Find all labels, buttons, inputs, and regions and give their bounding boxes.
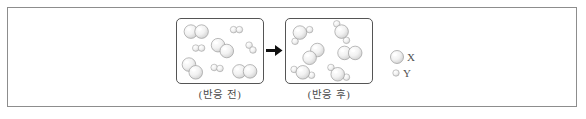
before-reaction-molecules <box>177 19 263 83</box>
atom-highlight <box>192 69 196 72</box>
before-reaction-caption: (반응 전) <box>165 86 275 101</box>
atom-x-sphere <box>303 51 317 65</box>
atom-highlight <box>187 28 191 31</box>
molecule-xy2 <box>291 66 315 80</box>
legend-swatch-x-icon <box>390 50 404 64</box>
atom-highlight <box>340 49 344 52</box>
atom-x-sphere <box>293 26 307 40</box>
atom-y-sphere <box>393 70 399 76</box>
molecule-x2 <box>233 65 257 79</box>
atom-y-sphere <box>198 45 205 52</box>
molecule-x2 <box>303 43 324 64</box>
atom-highlight <box>214 41 218 44</box>
molecule-y2 <box>246 42 256 53</box>
molecule-x2 <box>182 58 202 79</box>
atom-x-sphere <box>335 25 349 39</box>
reaction-arrow <box>266 44 283 57</box>
after-reaction-caption: (반응 후) <box>274 86 384 101</box>
atom-highlight <box>296 29 300 32</box>
legend-swatch-y-icon <box>392 69 400 77</box>
atom-highlight <box>313 46 317 49</box>
atom-highlight <box>299 69 303 72</box>
legend-item-y: Y <box>392 67 411 79</box>
molecule-xy2 <box>292 26 313 45</box>
atom-x-sphere <box>348 46 362 60</box>
atom-x-sphere <box>220 44 234 58</box>
legend-label-x: X <box>407 51 415 63</box>
molecule-x2 <box>211 38 233 57</box>
atom-highlight <box>246 68 250 71</box>
atom-highlight <box>334 70 338 73</box>
atom-x-sphere <box>195 25 209 39</box>
legend-label-y: Y <box>403 67 411 79</box>
atom-highlight <box>393 53 397 56</box>
atom-y-sphere <box>211 64 218 71</box>
legend-item-x: X <box>390 50 415 64</box>
molecule-x2 <box>184 25 208 39</box>
atom-highlight <box>306 54 310 57</box>
atom-x-sphere <box>391 51 404 64</box>
atom-x-sphere <box>331 67 345 81</box>
atom-highlight <box>185 61 189 64</box>
after-reaction-panel <box>285 18 373 84</box>
atom-highlight <box>223 47 227 50</box>
atom-highlight <box>338 28 342 31</box>
atom-y-sphere <box>306 26 313 33</box>
molecule-xy2 <box>328 64 350 81</box>
molecule-x2 <box>338 46 362 60</box>
atom-y-sphere <box>236 26 243 33</box>
atom-highlight <box>235 68 239 71</box>
molecule-y2 <box>211 64 223 72</box>
atom-highlight <box>198 28 202 31</box>
atom-y-sphere <box>250 47 257 54</box>
arrow-head-shape <box>266 45 283 56</box>
atom-x-sphere <box>243 65 257 79</box>
molecule-y2 <box>192 45 204 52</box>
molecule-xy2 <box>333 21 349 44</box>
atom-x-sphere <box>189 66 203 80</box>
molecule-y2 <box>230 26 242 33</box>
before-reaction-panel <box>176 18 264 84</box>
atom-highlight <box>351 49 355 52</box>
atom-x-sphere <box>296 66 310 80</box>
legend: X Y <box>390 50 450 86</box>
atom-y-sphere <box>217 65 224 72</box>
figure-root: (반응 전) (반응 후) X Y <box>0 0 586 119</box>
after-reaction-molecules <box>286 19 372 83</box>
